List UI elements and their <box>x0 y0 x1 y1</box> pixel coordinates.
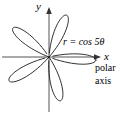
axes-group <box>2 7 101 112</box>
rose-curve <box>9 15 96 101</box>
polar-axis-label-line2: axis <box>95 76 111 86</box>
polar-rose-figure: y x r = cos 5θ polar axis <box>0 0 120 118</box>
rose-curve-path <box>9 15 96 101</box>
y-axis-label: y <box>36 1 41 12</box>
y-axis-arrowhead <box>46 7 52 14</box>
x-axis-label: x <box>104 51 109 62</box>
equation-label: r = cos 5θ <box>63 37 104 47</box>
polar-axis-label-line1: polar <box>95 63 116 73</box>
polar-plot-canvas <box>0 0 120 118</box>
